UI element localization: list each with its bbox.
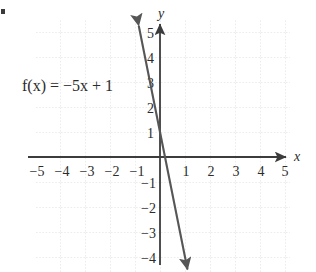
x-tick-label: 3 xyxy=(233,164,240,179)
x-tick-label: 1 xyxy=(183,164,190,179)
x-tick-label: 2 xyxy=(208,164,215,179)
function-label: f(x) = −5x + 1 xyxy=(22,77,113,95)
y-tick-label: 5 xyxy=(147,26,154,41)
x-tick-label: −5 xyxy=(30,164,45,179)
x-tick-label: 4 xyxy=(258,164,265,179)
y-tick-label: −1 xyxy=(141,176,156,191)
x-axis-label: x xyxy=(293,149,301,164)
y-tick-label: −3 xyxy=(141,226,156,241)
y-axis-label: y xyxy=(156,6,165,21)
x-tick-label: 5 xyxy=(282,164,289,179)
x-tick-label: −3 xyxy=(80,164,95,179)
y-tick-label: 4 xyxy=(147,51,154,66)
corner-mark xyxy=(1,9,5,14)
x-tick-label: −2 xyxy=(105,164,120,179)
y-tick-label: −4 xyxy=(141,251,156,266)
x-tick-label: −4 xyxy=(55,164,70,179)
coordinate-plane: x y −5 −4 −3 −2 −1 1 2 3 4 5 5 4 3 2 1 −… xyxy=(0,0,316,272)
y-tick-label: 2 xyxy=(147,101,154,116)
y-tick-label: −2 xyxy=(141,201,156,216)
y-tick-label: 1 xyxy=(147,126,154,141)
graph-figure: x y −5 −4 −3 −2 −1 1 2 3 4 5 5 4 3 2 1 −… xyxy=(0,0,316,272)
